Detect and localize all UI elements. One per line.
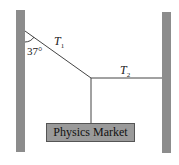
t2-sub: 2 [127, 71, 131, 79]
mass-box: Physics Market [46, 123, 135, 142]
t1-label: T1 [54, 34, 64, 49]
angle-arc [25, 37, 34, 42]
angle-label: 37° [27, 45, 42, 57]
t2-main: T [120, 63, 127, 77]
right-wall [162, 12, 171, 153]
t1-main: T [54, 34, 61, 48]
left-wall [16, 10, 25, 152]
t1-sub: 1 [61, 42, 65, 50]
t2-label: T2 [120, 63, 130, 78]
